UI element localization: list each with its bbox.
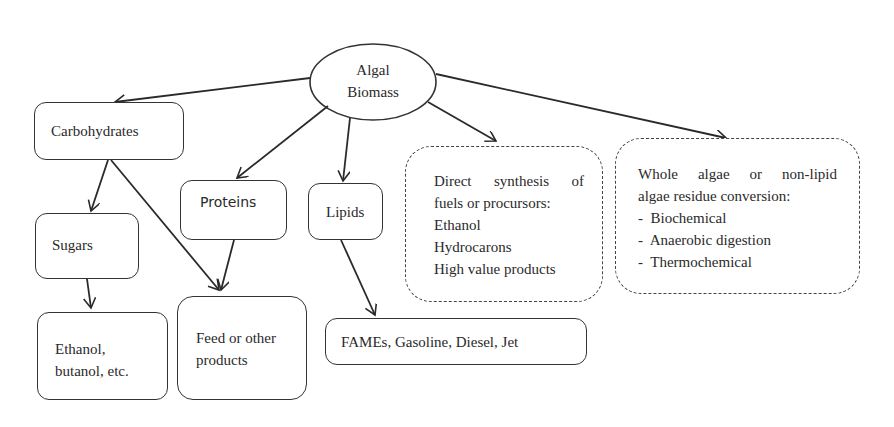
algal-biomass-line2: Biomass xyxy=(320,81,426,103)
direct-synthesis-node: Direct synthesis of fuels or procursors:… xyxy=(405,146,603,302)
lipids-node: Lipids xyxy=(308,183,383,240)
whole-algae-node: Whole algae or non-lipid algae residue c… xyxy=(615,138,860,294)
algal-biomass-line1: Algal xyxy=(320,59,426,81)
carbohydrates-label: Carbohydrates xyxy=(51,120,138,142)
carbohydrates-node: Carbohydrates xyxy=(34,102,184,160)
feed-products-line2: products xyxy=(196,349,306,371)
edge-root-carbohydrates xyxy=(115,78,310,102)
direct-synthesis-line-2: fuels or procursors: xyxy=(434,192,584,214)
edge-proteins-feed xyxy=(221,240,234,290)
direct-synthesis-line-1: Direct synthesis of xyxy=(434,170,584,192)
feed-products-line1: Feed or other xyxy=(196,327,306,349)
edge-root-whole-algae xyxy=(436,74,726,138)
edge-lipids-fames xyxy=(341,240,375,315)
sugars-label: Sugars xyxy=(52,234,93,256)
direct-synthesis-line-3: Ethanol xyxy=(434,214,584,236)
algal-biomass-label: Algal Biomass xyxy=(320,59,426,103)
ethanol-butanol-node: Ethanol, butanol, etc. xyxy=(37,312,168,400)
whole-algae-line-2: algae residue conversion: xyxy=(638,185,837,207)
whole-algae-line-1: Whole algae or non-lipid xyxy=(638,163,837,185)
edge-root-lipids xyxy=(343,118,350,181)
proteins-node: Proteins xyxy=(180,180,287,240)
whole-algae-line-3: - Biochemical xyxy=(638,207,837,229)
edge-carbohydrates-sugars xyxy=(91,160,108,211)
direct-synthesis-line-5: High value products xyxy=(434,258,584,280)
edge-sugars-ethanol xyxy=(87,279,91,308)
ethanol-butanol-line2: butanol, etc. xyxy=(55,360,167,382)
sugars-node: Sugars xyxy=(35,213,139,279)
ethanol-butanol-line1: Ethanol, xyxy=(55,338,167,360)
edge-root-direct-synthesis xyxy=(428,102,496,141)
fames-node: FAMEs, Gasoline, Diesel, Jet xyxy=(325,318,587,365)
proteins-label: Proteins xyxy=(200,191,256,213)
direct-synthesis-line-4: Hydrocarons xyxy=(434,236,584,258)
feed-products-node: Feed or other products xyxy=(177,296,307,400)
edge-root-proteins xyxy=(237,106,328,178)
whole-algae-line-5: - Thermochemical xyxy=(638,251,837,273)
fames-label: FAMEs, Gasoline, Diesel, Jet xyxy=(341,331,518,353)
whole-algae-line-4: - Anaerobic digestion xyxy=(638,229,837,251)
lipids-label: Lipids xyxy=(326,201,364,223)
